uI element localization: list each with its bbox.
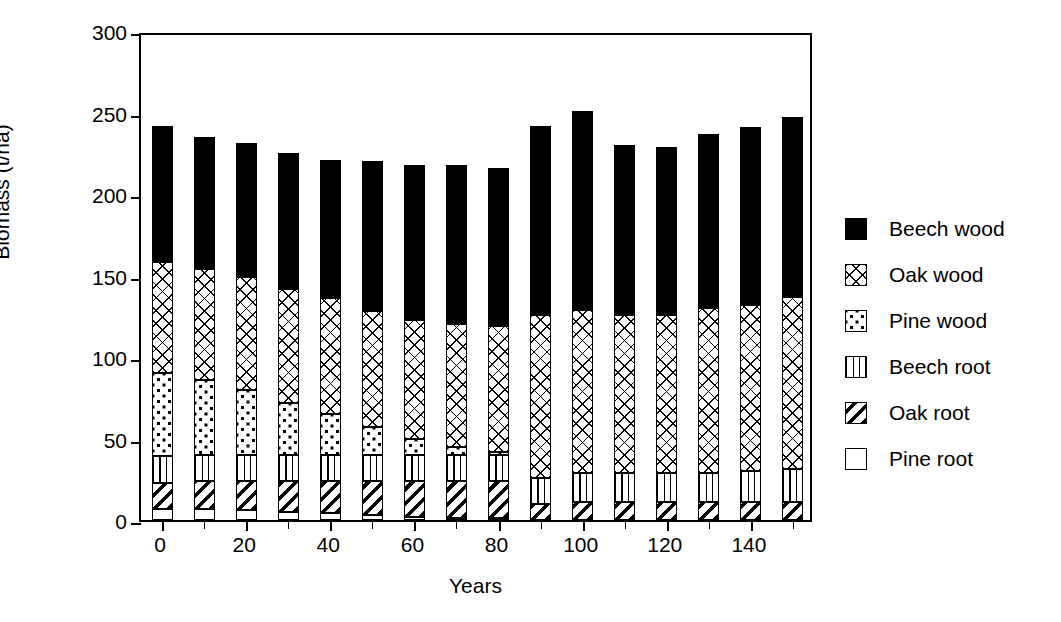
bar-100[interactable] <box>572 111 593 520</box>
bar-segment-oak-root[interactable] <box>152 483 173 509</box>
bar-20[interactable] <box>236 143 257 520</box>
bar-segment-beech-wood[interactable] <box>194 137 215 269</box>
x-axis-title: Years <box>139 574 812 598</box>
bar-segment-pine-root[interactable] <box>404 517 425 520</box>
legend-label: Oak wood <box>889 262 984 288</box>
bar-110[interactable] <box>614 145 635 520</box>
bar-segment-oak-wood[interactable] <box>572 310 593 473</box>
bar-segment-oak-root[interactable] <box>488 481 509 518</box>
bar-segment-beech-wood[interactable] <box>488 168 509 326</box>
bar-segment-oak-wood[interactable] <box>194 269 215 380</box>
bar-segment-oak-wood[interactable] <box>614 315 635 473</box>
bar-segment-beech-wood[interactable] <box>614 145 635 315</box>
bar-segment-beech-wood[interactable] <box>278 153 299 288</box>
bar-segment-beech-root[interactable] <box>488 455 509 481</box>
bar-segment-pine-root[interactable] <box>236 510 257 520</box>
bar-segment-oak-root[interactable] <box>446 481 467 518</box>
bar-segment-beech-wood[interactable] <box>152 126 173 263</box>
bar-segment-pine-root[interactable] <box>278 512 299 520</box>
bar-segment-beech-root[interactable] <box>362 455 383 481</box>
bar-150[interactable] <box>782 117 803 520</box>
bar-segment-beech-root[interactable] <box>614 473 635 502</box>
bar-90[interactable] <box>530 126 551 520</box>
bar-segment-beech-wood[interactable] <box>320 160 341 299</box>
bar-segment-beech-root[interactable] <box>572 473 593 502</box>
bar-segment-oak-root[interactable] <box>698 502 719 520</box>
bar-segment-beech-wood[interactable] <box>530 126 551 315</box>
bar-segment-beech-root[interactable] <box>530 478 551 504</box>
bar-segment-oak-root[interactable] <box>362 481 383 515</box>
bar-segment-beech-root[interactable] <box>152 456 173 482</box>
bar-segment-beech-wood[interactable] <box>656 147 677 315</box>
bar-segment-pine-wood[interactable] <box>362 427 383 455</box>
bar-segment-pine-root[interactable] <box>152 509 173 520</box>
bar-segment-oak-wood[interactable] <box>446 324 467 446</box>
bar-segment-oak-wood[interactable] <box>488 326 509 452</box>
bar-130[interactable] <box>698 134 719 520</box>
bar-60[interactable] <box>404 165 425 520</box>
bar-0[interactable] <box>152 126 173 520</box>
bar-segment-beech-root[interactable] <box>320 455 341 481</box>
bar-segment-oak-wood[interactable] <box>278 289 299 403</box>
bar-segment-oak-wood[interactable] <box>320 298 341 414</box>
bar-segment-beech-root[interactable] <box>740 471 761 502</box>
bar-segment-oak-root[interactable] <box>320 481 341 514</box>
bar-segment-pine-wood[interactable] <box>446 447 467 455</box>
bar-segment-oak-wood[interactable] <box>152 262 173 373</box>
bar-segment-oak-wood[interactable] <box>236 277 257 389</box>
bar-segment-beech-root[interactable] <box>404 455 425 481</box>
legend-swatch-oak-root-icon <box>845 402 867 424</box>
bar-70[interactable] <box>446 165 467 520</box>
bar-80[interactable] <box>488 168 509 520</box>
bar-segment-oak-root[interactable] <box>236 481 257 510</box>
bar-segment-oak-root[interactable] <box>572 502 593 520</box>
bar-segment-pine-wood[interactable] <box>404 439 425 455</box>
bar-segment-beech-root[interactable] <box>194 455 215 481</box>
bar-50[interactable] <box>362 161 383 520</box>
bar-segment-oak-wood[interactable] <box>656 315 677 473</box>
bar-segment-oak-root[interactable] <box>614 502 635 520</box>
bar-segment-beech-root[interactable] <box>278 455 299 481</box>
bar-segment-beech-wood[interactable] <box>740 127 761 305</box>
bar-segment-pine-wood[interactable] <box>320 414 341 455</box>
bar-segment-oak-root[interactable] <box>278 481 299 512</box>
bar-10[interactable] <box>194 137 215 520</box>
bar-segment-oak-root[interactable] <box>404 481 425 517</box>
x-axis-minor-tick <box>204 520 205 529</box>
bar-segment-pine-wood[interactable] <box>488 452 509 455</box>
bar-segment-beech-wood[interactable] <box>236 143 257 277</box>
bar-segment-beech-wood[interactable] <box>782 117 803 296</box>
bar-40[interactable] <box>320 160 341 520</box>
bar-segment-beech-wood[interactable] <box>698 134 719 308</box>
bar-segment-beech-root[interactable] <box>236 455 257 481</box>
bar-segment-beech-wood[interactable] <box>446 165 467 325</box>
bar-segment-pine-wood[interactable] <box>152 373 173 456</box>
bar-segment-oak-root[interactable] <box>740 502 761 520</box>
bar-segment-oak-root[interactable] <box>530 504 551 520</box>
bar-segment-oak-root[interactable] <box>656 502 677 520</box>
bar-segment-oak-wood[interactable] <box>740 305 761 471</box>
bar-segment-oak-wood[interactable] <box>362 311 383 427</box>
bar-segment-oak-wood[interactable] <box>530 315 551 478</box>
bar-segment-pine-wood[interactable] <box>278 403 299 455</box>
bar-segment-oak-wood[interactable] <box>698 308 719 473</box>
bar-segment-oak-root[interactable] <box>782 502 803 520</box>
bar-140[interactable] <box>740 127 761 520</box>
bar-segment-beech-wood[interactable] <box>404 165 425 320</box>
bar-segment-beech-wood[interactable] <box>362 161 383 311</box>
bar-120[interactable] <box>656 147 677 520</box>
bar-segment-beech-wood[interactable] <box>572 111 593 310</box>
bar-segment-oak-wood[interactable] <box>782 297 803 470</box>
bar-segment-oak-wood[interactable] <box>404 320 425 439</box>
bar-30[interactable] <box>278 153 299 520</box>
bar-segment-beech-root[interactable] <box>446 455 467 481</box>
bar-segment-pine-wood[interactable] <box>236 390 257 455</box>
bar-segment-oak-root[interactable] <box>194 481 215 509</box>
bar-segment-pine-wood[interactable] <box>194 380 215 455</box>
bar-segment-pine-root[interactable] <box>320 513 341 520</box>
bar-segment-pine-root[interactable] <box>194 509 215 520</box>
bar-segment-beech-root[interactable] <box>782 469 803 502</box>
bar-segment-beech-root[interactable] <box>698 473 719 502</box>
bar-segment-beech-root[interactable] <box>656 473 677 502</box>
bar-segment-pine-root[interactable] <box>362 515 383 520</box>
